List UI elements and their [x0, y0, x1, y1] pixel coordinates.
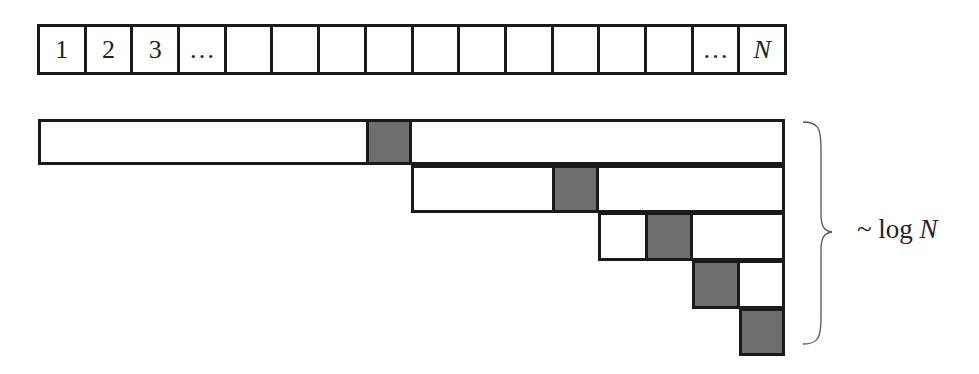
array-cell	[644, 24, 694, 75]
array-cell	[504, 24, 554, 75]
pivot-cell-2	[552, 165, 599, 213]
array-cell	[364, 24, 414, 75]
depth-label-prefix: ~ log	[857, 214, 920, 244]
array-cell: …	[691, 24, 741, 75]
array-cell	[224, 24, 274, 75]
array-cell	[457, 24, 507, 75]
curly-brace-icon	[800, 118, 840, 350]
pivot-cell-4	[692, 260, 740, 309]
array-cell	[551, 24, 601, 75]
array-cell	[317, 24, 367, 75]
array-cell: 1	[37, 24, 87, 75]
array-cell	[597, 24, 647, 75]
pivot-cell-1	[366, 119, 412, 165]
array-cell-n: N	[737, 24, 787, 75]
pivot-cell-5	[739, 308, 785, 356]
array-cell	[411, 24, 461, 75]
array-cell	[270, 24, 320, 75]
array-cell: 3	[130, 24, 180, 75]
depth-label: ~ log N	[857, 214, 938, 245]
array-cell: 2	[84, 24, 134, 75]
depth-label-variable: N	[920, 214, 938, 244]
array-row: 1 2 3 … … N	[40, 24, 787, 69]
pivot-cell-3	[645, 212, 693, 261]
array-cell: …	[177, 24, 227, 75]
